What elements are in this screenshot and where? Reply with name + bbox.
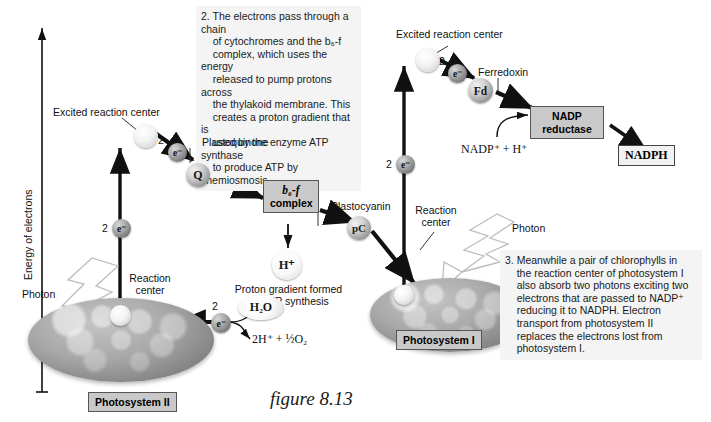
water-split-products: 2H⁺ + ½O₂ xyxy=(252,333,307,345)
ps1-photon-label: Photon xyxy=(512,222,545,234)
ps1-excited-center-label: Excited reaction center xyxy=(396,28,503,40)
nadp-substrate-label: NADP⁺ + H⁺ xyxy=(461,143,527,155)
electron-marker-ps1-vertical: e⁻ xyxy=(396,155,415,174)
callout-step-2: 2. The electrons pass through a chain of… xyxy=(196,6,361,191)
electron-count-water: 2 xyxy=(212,300,218,312)
electron-count-ps1-vertical: 2 xyxy=(386,158,392,170)
ps2-photon-label: Photon xyxy=(22,288,55,300)
ferredoxin-label: Ferredoxin xyxy=(478,66,528,78)
b6f-complex-chip: b₆-f complex xyxy=(263,180,319,213)
b6f-complex-line1: b₆-f xyxy=(270,184,312,197)
proton-sphere: H⁺ xyxy=(272,250,302,280)
nadph-product-box: NADPH xyxy=(618,145,675,166)
plastocyanin-label: Plastocyanin xyxy=(331,200,391,212)
electron-marker-ps2-vertical: e⁻ xyxy=(112,219,131,238)
ferredoxin-sphere: Fd xyxy=(468,78,493,103)
nadp-reductase-line1: NADP xyxy=(537,110,597,123)
figure-caption: figure 8.13 xyxy=(270,388,353,410)
b6f-complex-line2: complex xyxy=(270,197,312,210)
callout-step-3: 3. Meanwhile a pair of chlorophylls in t… xyxy=(500,250,702,360)
electron-count-ps2-vertical: 2 xyxy=(102,222,108,234)
electron-count-ps2-chain: 2 xyxy=(158,134,164,146)
water-molecule: H₂O xyxy=(238,295,284,320)
ps1-reaction-center-sphere xyxy=(394,285,414,305)
electron-count-ps1-chain: 2 xyxy=(439,55,445,67)
ps2-excited-center-label: Excited reaction center xyxy=(53,106,160,118)
y-axis-label: Energy of electrons xyxy=(22,190,34,280)
ps2-reaction-center-label: Reaction center xyxy=(118,272,182,296)
plastocyanin-sphere: pC xyxy=(347,216,371,240)
ps2-reaction-center-sphere xyxy=(110,305,131,326)
photosystem-ii-chip: Photosystem II xyxy=(88,392,177,412)
ps1-excited-center-sphere xyxy=(416,48,440,72)
electron-marker-ps1-chain: e⁻ xyxy=(448,64,467,83)
nadp-reductase-line2: reductase xyxy=(537,123,597,136)
plastoquinone-sphere: Q xyxy=(186,163,210,187)
ps2-excited-center-sphere xyxy=(134,124,158,148)
plastoquinone-label: Plastoquinone xyxy=(202,136,269,148)
water-split-curve-out xyxy=(230,322,250,339)
figure-canvas: Energy of electrons 2. The electrons pas… xyxy=(0,0,711,422)
ps1-reaction-center-label: Reaction center xyxy=(404,204,468,228)
nadp-reductase-chip: NADP reductase xyxy=(530,106,604,139)
nadp-substrate-arrow xyxy=(497,115,528,137)
photosystem-i-chip: Photosystem I xyxy=(396,330,482,350)
electron-marker-water: e⁻ xyxy=(211,313,231,333)
electron-marker-ps2-chain: e⁻ xyxy=(168,143,187,162)
